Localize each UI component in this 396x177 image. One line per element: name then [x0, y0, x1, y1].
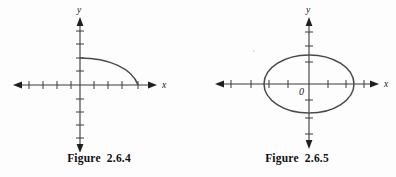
x-axis-arrow-right-icon [148, 82, 157, 89]
figure-caption-left: Figure 2.6.4 [0, 152, 198, 164]
scan-artifact-speck [253, 50, 255, 52]
quarter-ellipse-curve [80, 58, 138, 85]
x-axis-arrow-left-icon [13, 82, 22, 89]
x-axis-arrow-left-icon [215, 81, 224, 88]
y-axis-arrow-down-icon [306, 140, 313, 149]
figure-caption-right: Figure 2.6.5 [198, 152, 396, 164]
x-axis-arrow-right-icon [370, 81, 379, 88]
x-axis-label: x [161, 80, 167, 90]
y-axis-arrow-up-icon [77, 17, 84, 26]
coordinate-plot-ellipse: 0 x y [198, 0, 396, 152]
y-axis-arrow-up-icon [306, 17, 313, 26]
y-axis-label: y [76, 5, 82, 15]
figure-panel-left: x y Figure 2.6.4 [0, 0, 198, 177]
figure-panel-right: 0 x y Figure 2.6.5 [198, 0, 396, 177]
y-axis-label: y [305, 5, 311, 15]
coordinate-plot-quarter-ellipse: x y [0, 0, 198, 152]
y-axis-arrow-down-icon [77, 144, 84, 152]
x-axis-label: x [383, 79, 389, 89]
origin-label: 0 [299, 86, 304, 97]
